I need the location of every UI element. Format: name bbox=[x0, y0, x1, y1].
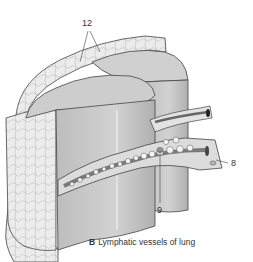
label-12: 12 bbox=[82, 19, 92, 28]
lung-illustration bbox=[0, 0, 253, 262]
label-9: 9 bbox=[157, 206, 162, 215]
caption-letter: B bbox=[89, 237, 95, 247]
label-8: 8 bbox=[231, 159, 236, 168]
figure-caption: BLymphatic vessels of lung bbox=[89, 237, 195, 247]
lung-lymphatic-diagram: 12 8 9 BLymphatic vessels of lung bbox=[0, 0, 253, 262]
caption-text: Lymphatic vessels of lung bbox=[98, 237, 195, 247]
